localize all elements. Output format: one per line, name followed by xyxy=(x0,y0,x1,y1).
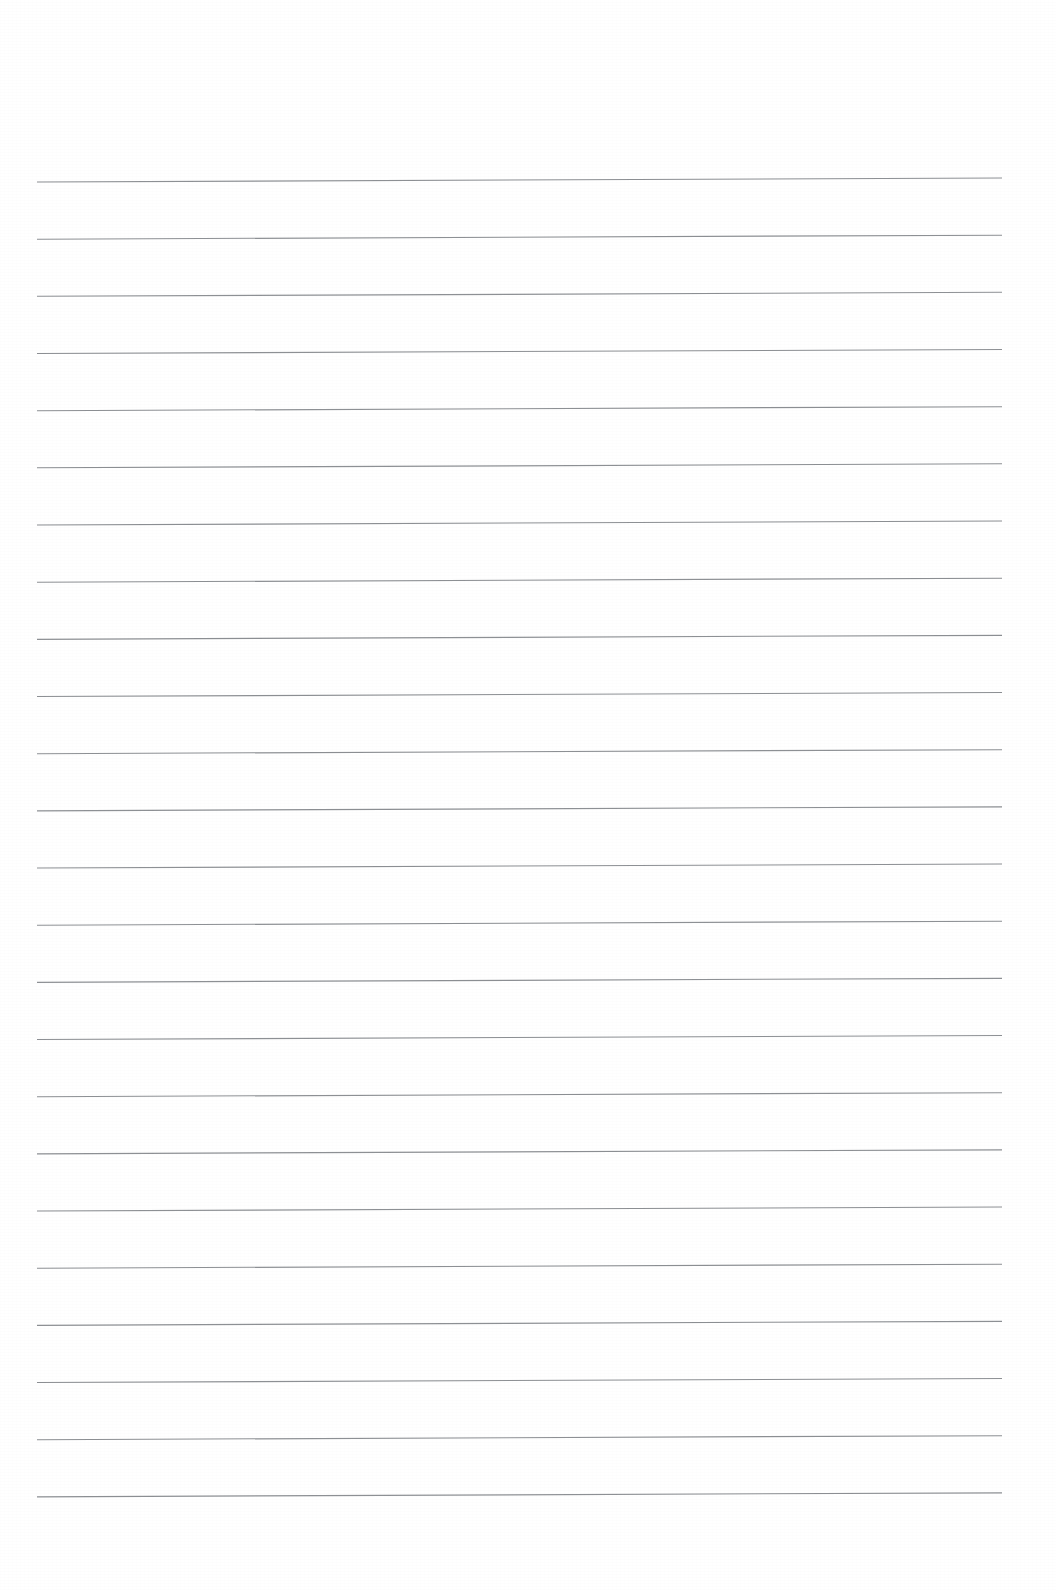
scanned-page xyxy=(0,0,1056,1590)
writing-content-layer xyxy=(0,0,1056,1590)
